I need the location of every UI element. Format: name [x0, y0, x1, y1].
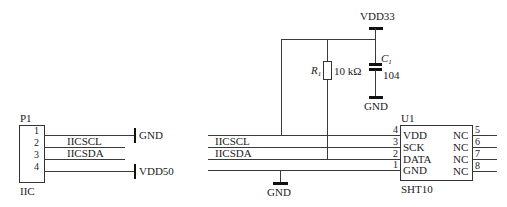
u1-pin-name-nc6: NC [453, 141, 468, 153]
sensor-circuit: VDD33 R1 10 kΩ C1 104 GND IICSCL IICSDA … [208, 10, 400, 198]
c1-designator: C1 [381, 52, 392, 66]
resistor-r1-icon [324, 62, 332, 80]
u1-pin-name-vdd: VDD [403, 129, 427, 141]
p1-body [20, 126, 45, 183]
c1-value: 104 [383, 69, 400, 81]
vdd33-label: VDD33 [360, 10, 395, 22]
schematic-diagram: P1 1 2 3 4 IIC IICSCL IICSDA GND VDD50 V… [0, 0, 507, 207]
u1-pin-8: 8 [475, 160, 480, 171]
u1-designator: U1 [401, 112, 414, 124]
connector-p1: P1 1 2 3 4 IIC IICSCL IICSDA GND VDD50 [20, 112, 175, 197]
u1-pin-6: 6 [475, 136, 480, 147]
p1-net-sda: IICSDA [67, 147, 104, 159]
u1-pin-name-gnd: GND [403, 164, 427, 176]
p1-net-gnd: GND [139, 129, 163, 141]
u1-pin-4: 4 [393, 124, 398, 135]
p1-pin-2: 2 [34, 137, 39, 148]
u1-part-number: SHT10 [401, 183, 433, 195]
u1-pin-5: 5 [475, 124, 480, 135]
p1-pin-4: 4 [34, 161, 39, 172]
bus-sda-label: IICSDA [215, 147, 252, 159]
p1-footer: IIC [20, 185, 35, 197]
p1-net-vdd50: VDD50 [139, 165, 174, 177]
p1-pin-3: 3 [34, 149, 39, 160]
u1-pin-2: 2 [393, 148, 398, 159]
u1-pin-name-sck: SCK [403, 141, 424, 153]
u1-pin-name-nc5: NC [453, 129, 468, 141]
u1-pin-1: 1 [393, 159, 398, 170]
p1-net-scl: IICSCL [67, 135, 102, 147]
r1-designator: R1 [310, 64, 321, 78]
u1-pin-name-nc8: NC [453, 165, 468, 177]
sensor-u1: U1 4 3 2 1 VDD SCK DATA GND NC NC NC NC … [393, 112, 497, 195]
bus-scl-label: IICSCL [215, 135, 250, 147]
p1-designator: P1 [20, 112, 32, 124]
p1-pin-1: 1 [34, 125, 39, 136]
u1-pin-name-nc7: NC [453, 153, 468, 165]
c1-gnd-label: GND [364, 100, 388, 112]
u1-pin-7: 7 [475, 148, 480, 159]
r1-value: 10 kΩ [334, 65, 361, 77]
bottom-gnd-label: GND [267, 186, 291, 198]
u1-pin-3: 3 [393, 136, 398, 147]
